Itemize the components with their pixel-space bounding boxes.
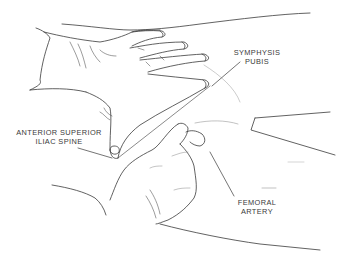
label-line: SYMPHYSIS xyxy=(226,48,288,57)
inguinal-ligament-line xyxy=(118,86,210,158)
femoral-leader xyxy=(210,152,234,196)
label-femoral-artery: FEMORAL ARTERY xyxy=(226,198,288,216)
label-symphysis-pubis: SYMPHYSIS PUBIS xyxy=(226,48,288,66)
label-line: ARTERY xyxy=(226,207,288,216)
label-line: FEMORAL xyxy=(226,198,288,207)
label-line: ANTERIOR SUPERIOR xyxy=(7,128,111,137)
label-line: ILIAC SPINE xyxy=(7,137,111,146)
palpating-hand xyxy=(110,123,205,224)
asis-leader xyxy=(78,148,112,158)
label-anterior-superior-iliac-spine: ANTERIOR SUPERIOR ILIAC SPINE xyxy=(7,128,111,146)
label-line: PUBIS xyxy=(226,57,288,66)
anatomy-illustration: SYMPHYSIS PUBIS ANTERIOR SUPERIOR ILIAC … xyxy=(0,0,346,256)
